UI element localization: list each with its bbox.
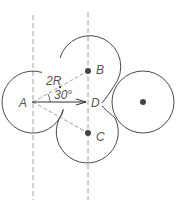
center-dot-b [85,68,91,74]
label-d: D [91,96,100,110]
label-a: A [18,96,27,110]
circle-b [60,36,121,86]
line-a-to-c [33,102,88,133]
circle-packing-diagram: A B C D 2R 30° [0,0,177,203]
circle-c [56,114,118,163]
center-dot-a [32,101,34,103]
label-30-degrees: 30° [54,88,72,102]
label-c: C [96,130,105,144]
center-dot-c [85,130,91,136]
label-2r: 2R [45,74,62,88]
angle-arc [48,94,50,102]
center-dot-right [140,99,146,105]
label-b: B [96,63,104,77]
